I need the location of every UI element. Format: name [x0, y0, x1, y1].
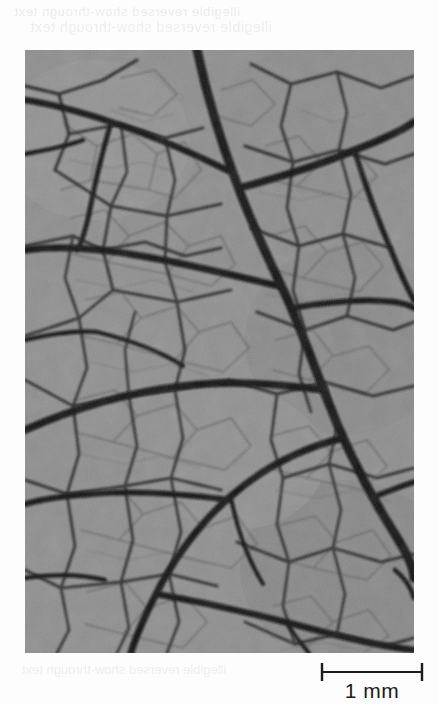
scale-bar: 1 mm: [318, 658, 426, 704]
showthrough-text-line-3: illegible reversed show-through text: [22, 662, 227, 677]
micrograph-canvas: [25, 50, 414, 653]
showthrough-text-line-1: illegible reversed show-through text: [14, 4, 240, 19]
leaf-venation-micrograph: [25, 50, 414, 653]
page-showthrough-band: illegible reversed show-through text ill…: [0, 4, 438, 38]
film-grain-layer: [25, 50, 414, 653]
scale-bar-label: 1 mm: [318, 680, 426, 702]
showthrough-text-line-2: illegible reversed show-through text: [30, 19, 272, 35]
